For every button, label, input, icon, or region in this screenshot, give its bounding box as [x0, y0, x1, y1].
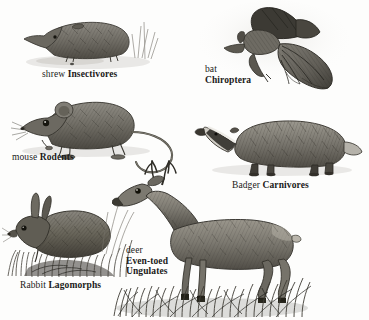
- shrew-common-name: shrew: [42, 69, 65, 79]
- mouse-order-name: Rodents: [40, 152, 74, 162]
- rabbit-label: Rabbit Lagomorphs: [20, 280, 101, 291]
- mouse-label: mouse Rodents: [12, 152, 74, 163]
- deer-order-line-1: Even-toed: [126, 256, 168, 267]
- bat-common-name: bat: [205, 64, 251, 75]
- illustration-plate: shrew Insectivores: [0, 0, 369, 320]
- shrew-label: shrew Insectivores: [42, 69, 117, 80]
- bat-order-name: Chiroptera: [205, 75, 251, 86]
- mouse-common-name: mouse: [12, 152, 37, 162]
- rabbit-order-name: Lagomorphs: [48, 280, 101, 290]
- rabbit-common-name: Rabbit: [20, 280, 46, 290]
- deer-label: deer Even-toed Ungulates: [126, 245, 168, 277]
- deer-figure: [112, 158, 312, 320]
- shrew-order-name: Insectivores: [68, 69, 118, 79]
- shrew-illustration: [10, 4, 170, 74]
- bat-illustration: [192, 0, 362, 100]
- shrew-figure: [10, 4, 170, 74]
- bat-figure: [192, 0, 362, 100]
- deer-illustration: [112, 158, 312, 320]
- deer-order-line-2: Ungulates: [126, 266, 168, 277]
- bat-label: bat Chiroptera: [205, 64, 251, 85]
- deer-common-name: deer: [126, 245, 168, 256]
